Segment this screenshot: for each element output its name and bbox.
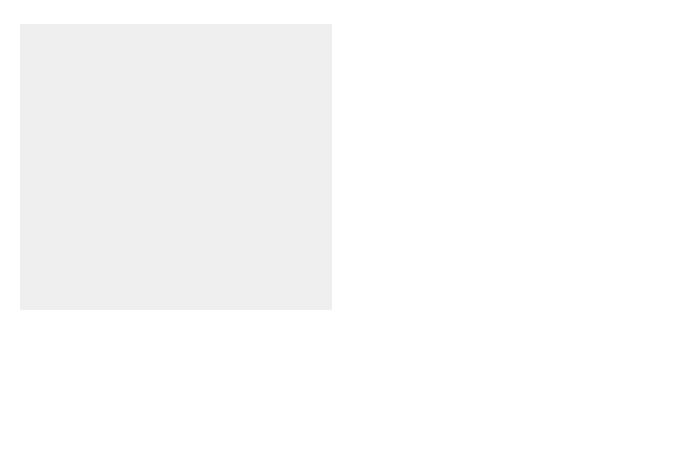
- diagram-panel-background: [20, 24, 332, 310]
- lift-diagram: [0, 0, 693, 455]
